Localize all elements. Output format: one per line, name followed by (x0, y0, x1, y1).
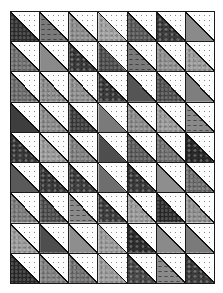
quilt-block (40, 103, 68, 132)
quilt-block (69, 193, 97, 222)
diagonal-seam (128, 254, 156, 283)
diagonal-seam (40, 163, 68, 192)
quilt-block (69, 42, 97, 71)
quilt-block (40, 133, 68, 162)
quilt-block (186, 254, 214, 283)
diagonal-seam (157, 133, 185, 162)
diagonal-seam (98, 133, 126, 162)
diagonal-seam (69, 12, 97, 41)
quilt-block (40, 163, 68, 192)
quilt-block (11, 42, 39, 71)
diagonal-seam (128, 133, 156, 162)
diagonal-seam (69, 224, 97, 253)
quilt-block (98, 103, 126, 132)
quilt-block (157, 12, 185, 41)
quilt-block (69, 254, 97, 283)
diagonal-seam (11, 254, 39, 283)
diagonal-seam (186, 193, 214, 222)
diagonal-seam (40, 12, 68, 41)
quilt-block (157, 224, 185, 253)
diagonal-seam (69, 163, 97, 192)
quilt-block (186, 163, 214, 192)
diagonal-seam (157, 254, 185, 283)
quilt-block (98, 254, 126, 283)
quilt-block (69, 133, 97, 162)
quilt-block (98, 42, 126, 71)
quilt-block (11, 12, 39, 41)
quilt-block (186, 133, 214, 162)
quilt-block (128, 254, 156, 283)
diagonal-seam (69, 133, 97, 162)
quilt-block (186, 224, 214, 253)
diagonal-seam (186, 163, 214, 192)
quilt-block (11, 193, 39, 222)
diagonal-seam (186, 133, 214, 162)
quilt-block (157, 42, 185, 71)
diagonal-seam (186, 42, 214, 71)
quilt-block (186, 103, 214, 132)
diagonal-seam (157, 163, 185, 192)
quilt-block (128, 224, 156, 253)
diagonal-seam (128, 193, 156, 222)
quilt-block (11, 163, 39, 192)
diagonal-seam (40, 254, 68, 283)
diagonal-seam (69, 103, 97, 132)
quilt-block (98, 163, 126, 192)
quilt-grid (10, 11, 215, 284)
diagonal-seam (186, 224, 214, 253)
diagonal-seam (186, 254, 214, 283)
quilt-block (98, 12, 126, 41)
quilt-block (69, 72, 97, 101)
quilt-block (69, 224, 97, 253)
quilt-block (128, 42, 156, 71)
diagonal-seam (98, 72, 126, 101)
diagonal-seam (186, 72, 214, 101)
quilt-block (157, 193, 185, 222)
diagonal-seam (98, 254, 126, 283)
diagonal-seam (186, 103, 214, 132)
diagonal-seam (11, 42, 39, 71)
quilt-block (128, 12, 156, 41)
diagonal-seam (40, 72, 68, 101)
diagonal-seam (128, 42, 156, 71)
diagonal-seam (11, 163, 39, 192)
diagonal-seam (128, 163, 156, 192)
quilt-block (69, 163, 97, 192)
quilt-block (98, 224, 126, 253)
quilt-block (157, 72, 185, 101)
quilt-block (186, 193, 214, 222)
quilt-block (157, 133, 185, 162)
diagonal-seam (11, 72, 39, 101)
quilt-block (128, 133, 156, 162)
diagonal-seam (128, 12, 156, 41)
quilt-block (128, 163, 156, 192)
diagonal-seam (157, 72, 185, 101)
quilt-block (11, 224, 39, 253)
quilt-block (98, 133, 126, 162)
quilt-block (11, 72, 39, 101)
diagonal-seam (157, 193, 185, 222)
diagonal-seam (157, 224, 185, 253)
diagonal-seam (40, 42, 68, 71)
diagonal-seam (69, 193, 97, 222)
diagonal-seam (157, 103, 185, 132)
diagonal-seam (186, 12, 214, 41)
diagonal-seam (11, 133, 39, 162)
quilt-block (40, 224, 68, 253)
quilt-block (128, 72, 156, 101)
diagonal-seam (98, 103, 126, 132)
quilt-block (40, 193, 68, 222)
diagonal-seam (40, 224, 68, 253)
diagonal-seam (98, 163, 126, 192)
diagonal-seam (11, 103, 39, 132)
quilt-block (186, 42, 214, 71)
quilt-block (157, 163, 185, 192)
quilt-block (98, 72, 126, 101)
diagonal-seam (98, 12, 126, 41)
diagonal-seam (40, 103, 68, 132)
quilt-block (69, 12, 97, 41)
quilt-block (40, 72, 68, 101)
quilt-block (11, 133, 39, 162)
quilt-block (11, 254, 39, 283)
quilt-block (40, 12, 68, 41)
